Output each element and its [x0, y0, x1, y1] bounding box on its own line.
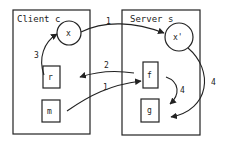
svg-text:3: 3 [34, 51, 39, 60]
edge-f-to-g: 4 [166, 77, 185, 104]
node-x: x [57, 21, 81, 45]
node-g: g [141, 99, 159, 122]
svg-text:4: 4 [211, 78, 216, 87]
svg-text:x': x' [173, 33, 183, 42]
node-m: m [42, 100, 60, 122]
svg-text:2: 2 [104, 61, 109, 70]
server-label: Server s [130, 14, 173, 24]
svg-text:g: g [147, 106, 152, 115]
svg-text:f: f [147, 71, 152, 80]
svg-text:4: 4 [180, 86, 185, 95]
diagram: Client c Server s x x' r m f g 1 [0, 0, 228, 144]
svg-text:m: m [47, 107, 52, 116]
svg-text:r: r [48, 73, 53, 82]
svg-text:1: 1 [106, 17, 111, 26]
node-x-prime: x' [165, 23, 193, 51]
node-f: f [143, 62, 158, 88]
edge-m-to-f: 1 [67, 81, 141, 111]
edge-f-to-r: 2 [80, 61, 134, 77]
svg-text:1: 1 [103, 83, 108, 92]
client-label: Client c [17, 14, 60, 24]
edge-x-prime-to-g: 4 [171, 48, 216, 117]
svg-text:x: x [66, 29, 71, 38]
node-r: r [43, 66, 60, 88]
